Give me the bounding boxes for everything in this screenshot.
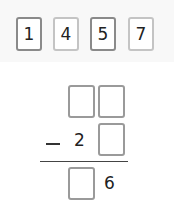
digit-card-7[interactable]: 7 (128, 17, 154, 51)
digit-card-label: 5 (98, 24, 109, 44)
digit-card-5[interactable]: 5 (90, 17, 116, 51)
minuend-tens-slot[interactable] (68, 85, 95, 118)
digit-card-4[interactable]: 4 (53, 17, 79, 51)
subtrahend-ones-slot[interactable] (98, 123, 125, 156)
minus-sign (46, 143, 60, 145)
digit-card-label: 1 (24, 24, 35, 44)
digit-card-label: 7 (136, 24, 147, 44)
digit-card-1[interactable]: 1 (16, 17, 42, 51)
digit-card-label: 4 (61, 24, 72, 44)
digit-card-panel: 1 4 5 7 (0, 0, 174, 62)
subtrahend-tens-digit: 2 (74, 132, 85, 149)
minuend-ones-slot[interactable] (98, 85, 125, 118)
difference-tens-slot[interactable] (68, 167, 95, 200)
difference-ones-digit: 6 (104, 175, 115, 192)
sum-line (40, 161, 128, 162)
